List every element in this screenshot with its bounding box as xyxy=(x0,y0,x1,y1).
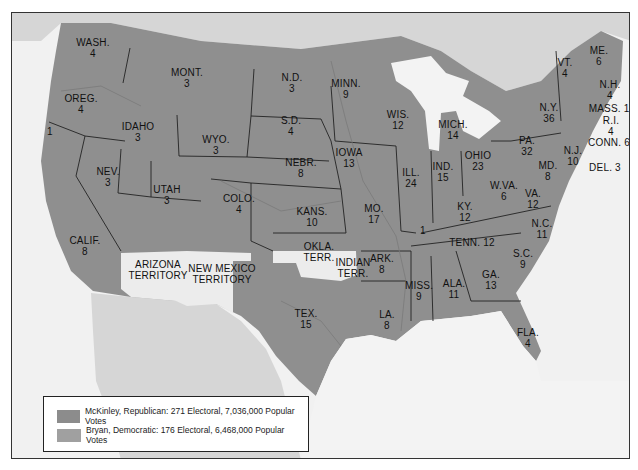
state-label: COLO. 4 xyxy=(223,193,255,215)
state-label: CONN. 6 xyxy=(588,137,630,148)
state-label: OHIO 23 xyxy=(465,150,491,172)
state-label: 1 xyxy=(420,225,426,236)
state-label: N.J. 10 xyxy=(564,145,583,167)
state-label: MISS. 9 xyxy=(405,280,433,302)
state-label: OREG. 4 xyxy=(64,93,97,115)
state-label: N.Y. 36 xyxy=(540,102,559,124)
state-label: W.VA. 6 xyxy=(490,180,518,202)
state-label: ALA. 11 xyxy=(443,278,465,300)
legend-label-bryan: Bryan, Democratic: 176 Electoral, 6,468,… xyxy=(86,425,308,445)
state-label: IOWA 13 xyxy=(335,147,362,169)
legend-item-bryan: Bryan, Democratic: 176 Electoral, 6,468,… xyxy=(57,428,308,442)
state-label: WYO. 3 xyxy=(202,134,229,156)
state-label: N.C. 11 xyxy=(532,218,553,240)
state-label: R.I. 4 xyxy=(603,115,619,137)
state-label: WASH. 4 xyxy=(76,37,109,59)
state-label: N.H. 4 xyxy=(600,79,621,101)
state-label: GA. 13 xyxy=(482,269,500,291)
state-label: ILL. 24 xyxy=(402,167,419,189)
state-label: MONT. 3 xyxy=(171,67,203,89)
state-label: TEX. 15 xyxy=(294,308,317,330)
state-label: N.D. 3 xyxy=(282,72,303,94)
state-label: UTAH 3 xyxy=(153,184,180,206)
state-label: 1 xyxy=(47,126,53,137)
state-label: MD. 8 xyxy=(539,160,558,182)
state-label: IND. 15 xyxy=(433,161,454,183)
state-label: MINN. 9 xyxy=(331,78,360,100)
state-label: VT. 4 xyxy=(557,57,572,79)
state-label: S.D. 4 xyxy=(281,115,301,137)
state-label: S.C. 9 xyxy=(513,248,533,270)
state-label: PA. 32 xyxy=(519,135,535,157)
legend-label-mckinley: McKinley, Republican: 271 Electoral, 7,0… xyxy=(85,406,308,426)
state-label: ME. 6 xyxy=(590,45,608,67)
state-label: ARK. 8 xyxy=(370,253,394,275)
territory-label: NEW MEXICO TERRITORY xyxy=(188,263,256,285)
territory-label: OKLA. TERR. xyxy=(304,241,335,263)
state-label: LA. 8 xyxy=(379,309,395,331)
state-label: KY. 12 xyxy=(457,201,472,223)
state-label: MO. 17 xyxy=(364,203,384,225)
state-label: WIS. 12 xyxy=(387,109,409,131)
map-legend: McKinley, Republican: 271 Electoral, 7,0… xyxy=(43,396,309,452)
state-label: KANS. 10 xyxy=(296,206,327,228)
state-label: NEBR. 8 xyxy=(285,157,317,179)
territory-label: INDIAN TERR. xyxy=(335,257,370,279)
state-label: NEV. 3 xyxy=(96,166,119,188)
bryan-swatch xyxy=(57,429,81,442)
mckinley-swatch xyxy=(57,410,80,423)
state-label: DEL. 3 xyxy=(589,162,621,173)
state-label: VA. 12 xyxy=(525,188,541,210)
state-label: TENN. 12 xyxy=(449,237,495,248)
election-map-frame: WASH. 4MONT. 3OREG. 4IDAHO 3WYO. 3N.D. 3… xyxy=(11,12,630,459)
territory-label: ARIZONA TERRITORY xyxy=(128,259,187,281)
state-label: IDAHO 3 xyxy=(122,121,155,143)
state-label: CALIF. 8 xyxy=(69,235,100,257)
state-label: FLA. 4 xyxy=(517,327,539,349)
state-label: MASS. 15 xyxy=(589,103,630,114)
state-label: MICH. 14 xyxy=(438,119,467,141)
legend-item-mckinley: McKinley, Republican: 271 Electoral, 7,0… xyxy=(57,409,308,423)
